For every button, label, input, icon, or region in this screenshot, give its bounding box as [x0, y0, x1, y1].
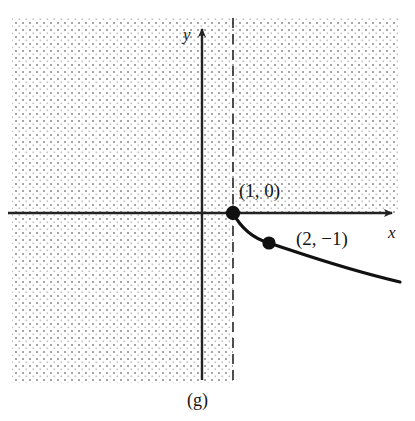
- graph-figure: y x (1, 0) (2, −1) (g): [0, 0, 415, 421]
- point-label-1-0: (1, 0): [239, 181, 280, 200]
- stippled-excluded-region: [12, 18, 398, 383]
- x-axis-label: x: [388, 224, 396, 241]
- y-axis-label: y: [183, 26, 191, 43]
- point-label-2-minus-1: (2, −1): [296, 229, 348, 248]
- figure-caption: (g): [187, 391, 208, 409]
- graph-canvas: [0, 0, 415, 421]
- data-point-2-minus-1: [262, 236, 275, 249]
- data-point-1-0: [226, 206, 240, 220]
